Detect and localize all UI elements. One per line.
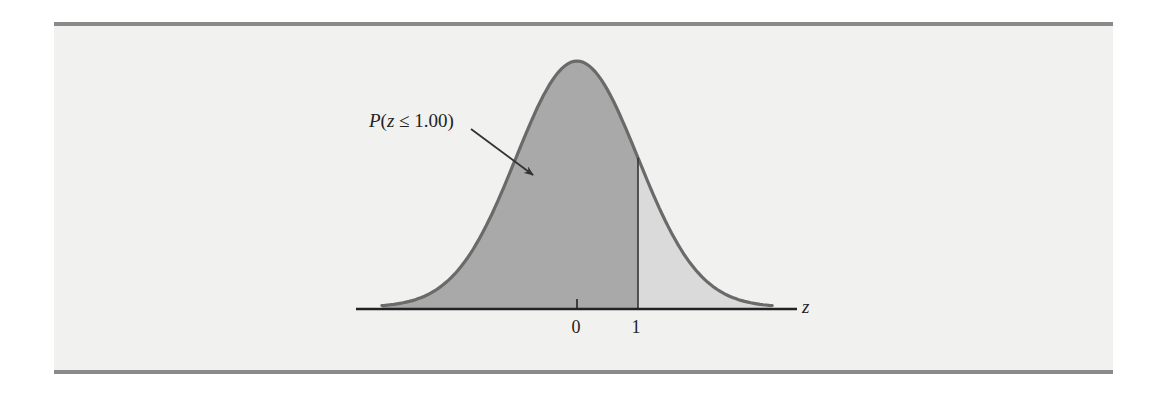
annotation-probability-label: P(z ≤ 1.00)	[368, 110, 454, 132]
right-tail-area	[638, 158, 772, 309]
cumulative-area-left-of-z1	[382, 61, 638, 309]
tick-label-1: 1	[632, 317, 641, 337]
normal-distribution-chart: 0 1 z P(z ≤ 1.00)	[0, 0, 1160, 393]
tick-label-0: 0	[572, 317, 581, 337]
axis-label-z: z	[801, 296, 810, 317]
